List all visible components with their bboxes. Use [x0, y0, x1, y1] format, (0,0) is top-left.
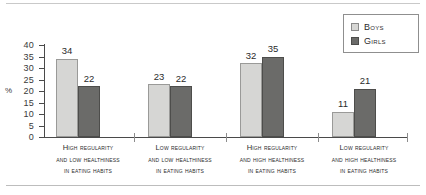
category-2-line-0: High regularity: [224, 142, 320, 154]
dark-gray-swatch-icon: [351, 37, 359, 45]
category-0-line-2: in eating habits: [40, 165, 136, 177]
chart-legend: Boys Girls: [343, 14, 419, 53]
category-0-line-0: High regularity: [40, 142, 136, 154]
plot-area: [44, 45, 408, 137]
legend-label-boys: Boys: [364, 23, 384, 32]
value-label-girls-group-1: 22: [166, 74, 196, 84]
bar-girls-group-1[interactable]: [170, 86, 192, 137]
y-tick-label-10: 10: [14, 110, 34, 119]
value-label-boys-group-3: 11: [328, 99, 358, 109]
y-tick-label-0: 0: [14, 133, 34, 142]
value-label-girls-group-2: 35: [258, 44, 288, 54]
category-label-1: Low regularity and low healthiness in ea…: [132, 142, 228, 177]
y-tick-label-5: 5: [14, 122, 34, 131]
y-tick-label-35: 35: [14, 53, 34, 62]
top-divider-rule: [6, 3, 420, 4]
value-label-girls-group-3: 21: [350, 76, 380, 86]
category-1-line-2: in eating habits: [132, 165, 228, 177]
y-axis-unit-label: %: [5, 86, 12, 95]
y-tick-label-40: 40: [14, 41, 34, 50]
category-0-line-1: and low healthiness: [40, 154, 136, 166]
category-1-line-0: Low regularity: [132, 142, 228, 154]
bottom-divider-rule: [6, 185, 420, 186]
y-tick-label-25: 25: [14, 76, 34, 85]
bar-girls-group-0[interactable]: [78, 86, 100, 137]
category-3-line-1: and high healthiness: [316, 154, 412, 166]
bar-girls-group-3[interactable]: [354, 89, 376, 137]
category-label-3: Low regularity and high healthiness in e…: [316, 142, 412, 177]
category-label-0: High regularity and low healthiness in e…: [40, 142, 136, 177]
category-1-line-1: and low healthiness: [132, 154, 228, 166]
bar-boys-group-3[interactable]: [332, 112, 354, 137]
y-tick-label-15: 15: [14, 99, 34, 108]
y-tick-label-30: 30: [14, 64, 34, 73]
category-2-line-2: in eating habits: [224, 165, 320, 177]
category-3-line-0: Low regularity: [316, 142, 412, 154]
bar-boys-group-2[interactable]: [240, 63, 262, 137]
y-tick-label-20: 20: [14, 87, 34, 96]
y-tick-0: [39, 137, 44, 138]
legend-label-girls: Girls: [364, 37, 386, 46]
bar-boys-group-0[interactable]: [56, 59, 78, 137]
category-label-2: High regularity and high healthiness in …: [224, 142, 320, 177]
bar-boys-group-1[interactable]: [148, 84, 170, 137]
value-label-boys-group-0: 34: [52, 46, 82, 56]
category-2-line-1: and high healthiness: [224, 154, 320, 166]
bar-girls-group-2[interactable]: [262, 57, 284, 138]
legend-item-girls[interactable]: Girls: [351, 36, 386, 46]
category-3-line-2: in eating habits: [316, 165, 412, 177]
bar-chart-figure: % 40 35 30 25 20 15 10 5 0 34 22 23 22: [0, 0, 426, 195]
legend-item-boys[interactable]: Boys: [351, 22, 384, 32]
value-label-girls-group-0: 22: [74, 74, 104, 84]
light-gray-swatch-icon: [351, 23, 359, 31]
